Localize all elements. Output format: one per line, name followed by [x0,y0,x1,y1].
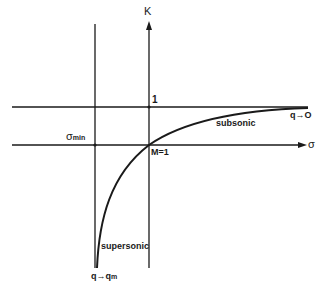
q-to-qm-label: q→qm [91,272,117,281]
sigma-min-subscript: min [73,134,85,141]
k-axis-arrow-icon [146,21,152,30]
sonic-point-label: M=1 [151,148,169,157]
supersonic-label: supersonic [101,242,149,251]
q-to-qm-subscript: m [111,273,117,280]
sigma-min-point [93,143,96,146]
subsonic-label: subsonic [216,119,256,128]
q-to-zero-label: q→O [290,111,312,120]
sigma-min-base: σ [66,130,73,142]
sigma-min-label: σmin [66,131,85,142]
sigma-axis-arrow-icon [298,142,307,148]
sigma-axis-label: σ [308,139,315,150]
q-to-qm-base: q→q [91,271,111,281]
tick-one-label: 1 [152,95,158,105]
k-one-point [147,105,150,108]
k-axis-label: K [144,6,151,17]
